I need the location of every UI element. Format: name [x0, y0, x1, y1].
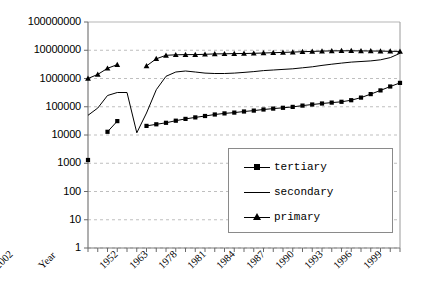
legend-triangle-marker-icon: [244, 211, 270, 223]
y-axis-tick-label: 10: [0, 213, 81, 225]
chart-container: 1000000001000000010000001000001000010001…: [0, 0, 424, 296]
legend-item-tertiary: tertiary: [244, 158, 327, 176]
y-axis-tick-label: 1: [0, 241, 81, 253]
legend-square-marker-icon: [244, 161, 270, 173]
series-secondary: [88, 53, 400, 133]
legend-line-marker-icon: [244, 186, 270, 198]
y-axis-tick-label: 1000: [0, 156, 81, 168]
legend-label: secondary: [274, 186, 333, 198]
series-primary: [85, 48, 403, 81]
legend-item-secondary: secondary: [244, 183, 333, 201]
y-axis-tick-label: 100: [0, 185, 81, 197]
y-axis-tick-label: 10000000: [0, 43, 81, 55]
y-axis-tick-label: 100000000: [0, 15, 81, 27]
y-axis-tick-label: 1000000: [0, 72, 81, 84]
legend-label: primary: [274, 211, 320, 223]
legend-label: tertiary: [274, 161, 327, 173]
legend-item-primary: primary: [244, 208, 320, 226]
y-axis-tick-label: 100000: [0, 100, 81, 112]
y-axis-tick-label: 10000: [0, 128, 81, 140]
